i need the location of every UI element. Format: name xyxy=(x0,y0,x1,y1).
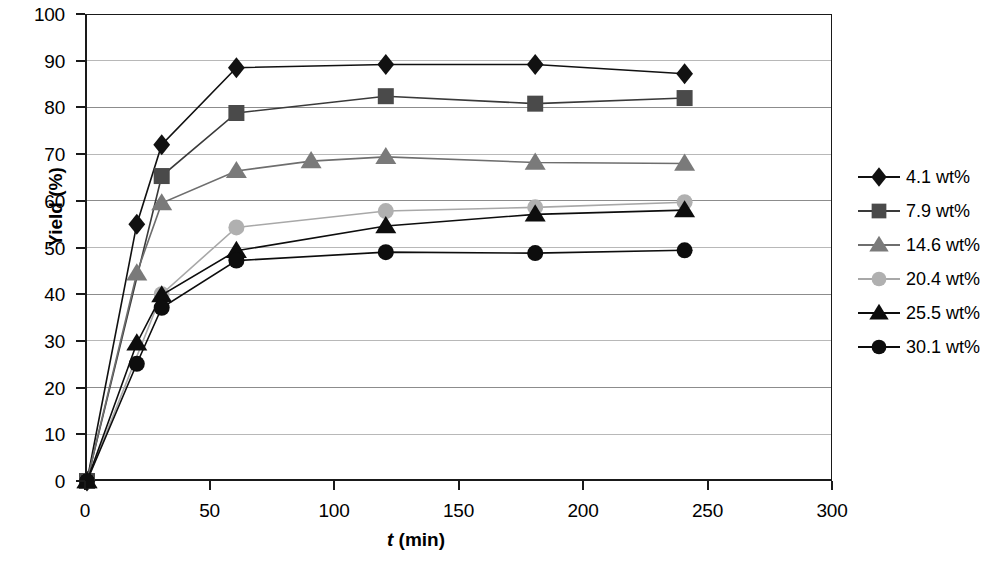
series-20-4-wt- xyxy=(79,194,693,489)
circle-icon xyxy=(866,267,892,291)
legend-label: 20.4 wt% xyxy=(900,270,980,288)
y-tick-label-40: 40 xyxy=(0,285,65,304)
x-tick-300 xyxy=(831,481,833,490)
x-axis-title-unit: (min) xyxy=(393,529,445,550)
x-tick-label-0: 0 xyxy=(45,501,125,520)
legend-label: 25.5 wt% xyxy=(900,304,980,322)
data-point xyxy=(677,90,693,106)
y-tick-70 xyxy=(76,153,85,155)
circle-icon xyxy=(866,335,892,359)
legend: 4.1 wt%7.9 wt%14.6 wt%20.4 wt%25.5 wt%30… xyxy=(858,160,998,364)
data-point xyxy=(378,88,394,104)
legend-label: 4.1 wt% xyxy=(900,168,970,186)
x-tick-label-200: 200 xyxy=(543,501,623,520)
series-layer xyxy=(87,14,834,481)
data-point xyxy=(129,356,145,372)
data-point xyxy=(525,153,546,170)
diamond-icon xyxy=(866,165,892,189)
y-tick-label-90: 90 xyxy=(0,52,65,71)
y-tick-label-20: 20 xyxy=(0,379,65,398)
data-point xyxy=(128,214,145,235)
y-axis-title: Yield (%) xyxy=(45,147,67,267)
x-tick-200 xyxy=(582,481,584,490)
chart-figure: 0102030405060708090100 05010015020025030… xyxy=(0,0,998,566)
triangle-icon xyxy=(866,301,892,325)
data-point xyxy=(301,151,322,168)
x-tick-150 xyxy=(458,481,460,490)
x-tick-label-300: 300 xyxy=(792,501,872,520)
y-tick-label-10: 10 xyxy=(0,425,65,444)
y-tick-label-30: 30 xyxy=(0,332,65,351)
data-point xyxy=(375,216,396,233)
data-point xyxy=(676,63,693,84)
data-point xyxy=(677,242,693,258)
data-point xyxy=(527,245,543,261)
legend-item-20-4-wt-[interactable]: 20.4 wt% xyxy=(858,262,998,296)
x-axis-title: t (min) xyxy=(0,529,832,551)
series-30-1-wt- xyxy=(79,242,693,489)
legend-marker xyxy=(858,302,900,324)
data-point xyxy=(674,153,695,170)
legend-item-30-1-wt-[interactable]: 30.1 wt% xyxy=(858,330,998,364)
legend-marker xyxy=(858,234,900,256)
legend-label: 30.1 wt% xyxy=(900,338,980,356)
series-14-6-wt- xyxy=(77,147,696,488)
x-tick-label-150: 150 xyxy=(419,501,499,520)
series-25-5-wt- xyxy=(77,200,696,488)
series-line xyxy=(87,250,685,481)
y-tick-20 xyxy=(76,387,85,389)
data-point xyxy=(153,134,170,155)
y-tick-100 xyxy=(76,13,85,15)
data-point xyxy=(375,147,396,164)
data-point xyxy=(527,96,543,112)
y-tick-label-80: 80 xyxy=(0,98,65,117)
x-tick-250 xyxy=(707,481,709,490)
data-point xyxy=(377,54,394,75)
y-tick-90 xyxy=(76,60,85,62)
y-tick-50 xyxy=(76,247,85,249)
legend-item-7-9-wt-[interactable]: 7.9 wt% xyxy=(858,194,998,228)
series-4-1-wt- xyxy=(79,54,693,492)
legend-marker xyxy=(858,166,900,188)
y-tick-60 xyxy=(76,200,85,202)
series-line xyxy=(87,202,685,481)
data-point xyxy=(154,300,170,316)
data-point xyxy=(228,57,245,78)
legend-label: 14.6 wt% xyxy=(900,236,980,254)
legend-label: 7.9 wt% xyxy=(900,202,970,220)
data-point xyxy=(228,253,244,269)
data-point xyxy=(378,244,394,260)
legend-marker xyxy=(858,336,900,358)
y-tick-80 xyxy=(76,106,85,108)
x-tick-label-250: 250 xyxy=(668,501,748,520)
y-tick-40 xyxy=(76,293,85,295)
y-tick-label-0: 0 xyxy=(0,472,65,491)
data-point xyxy=(154,168,170,184)
legend-item-25-5-wt-[interactable]: 25.5 wt% xyxy=(858,296,998,330)
series-line xyxy=(87,64,685,481)
legend-item-4-1-wt-[interactable]: 4.1 wt% xyxy=(858,160,998,194)
x-tick-label-100: 100 xyxy=(294,501,374,520)
plot-area xyxy=(85,14,832,481)
y-tick-10 xyxy=(76,433,85,435)
x-tick-label-50: 50 xyxy=(170,501,250,520)
triangle-icon xyxy=(866,233,892,257)
data-point xyxy=(228,105,244,121)
x-tick-100 xyxy=(333,481,335,490)
x-tick-0 xyxy=(84,481,86,490)
data-point xyxy=(151,193,172,210)
y-tick-label-100: 100 xyxy=(0,5,65,24)
square-icon xyxy=(866,199,892,223)
y-tick-30 xyxy=(76,340,85,342)
data-point xyxy=(527,54,544,75)
legend-marker xyxy=(858,268,900,290)
x-tick-50 xyxy=(209,481,211,490)
legend-item-14-6-wt-[interactable]: 14.6 wt% xyxy=(858,228,998,262)
legend-marker xyxy=(858,200,900,222)
data-point xyxy=(228,219,244,235)
